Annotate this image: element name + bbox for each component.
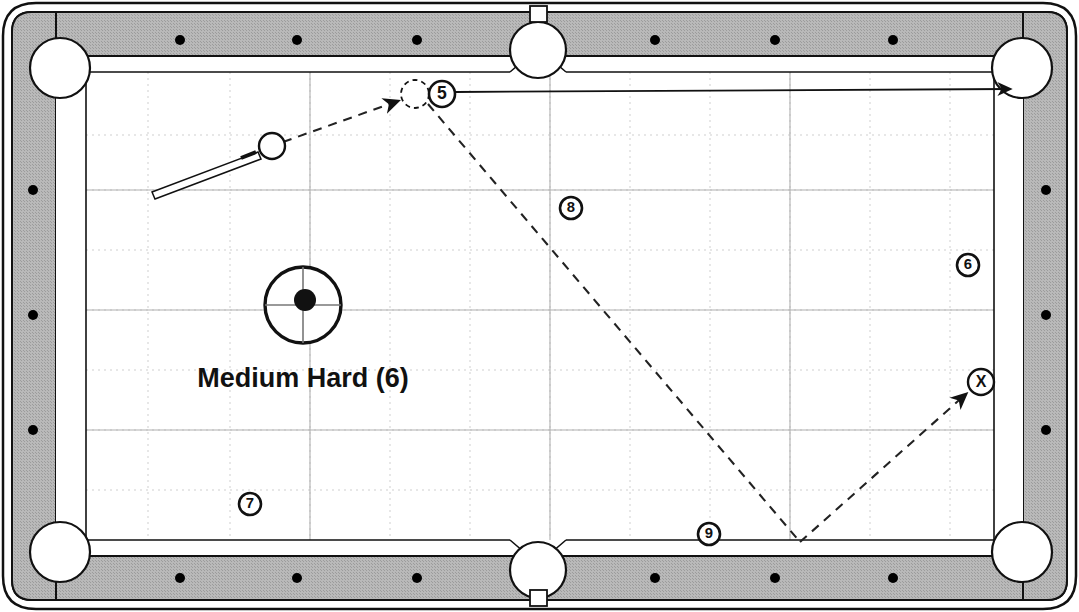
- ball-number: 9: [705, 525, 713, 541]
- rail-dot-top: [292, 35, 302, 45]
- rail-dot-bottom: [412, 573, 422, 583]
- tip-position-indicator: [265, 267, 341, 343]
- ball-8: 8: [560, 197, 582, 219]
- rail-dot-right: [1041, 425, 1051, 435]
- tip-contact-point: [294, 289, 316, 311]
- rail-dot-top: [412, 35, 422, 45]
- rail-dot-left: [28, 425, 38, 435]
- rail-dot-left: [28, 310, 38, 320]
- pocket-top-middle: [510, 22, 566, 78]
- target-label: X: [976, 373, 987, 390]
- rail-right: [1023, 12, 1067, 600]
- pocket-tab-top: [530, 6, 547, 22]
- pool-table-diagram: 58679 X Medium Hard (6): [0, 0, 1079, 612]
- pocket-bottom-right: [992, 522, 1052, 582]
- table-canvas: 58679 X Medium Hard (6): [0, 0, 1079, 612]
- rail-dot-top: [770, 35, 780, 45]
- rail-dot-bottom: [175, 573, 185, 583]
- table-frame: [3, 3, 1076, 609]
- ball-number: 6: [964, 256, 972, 272]
- cue-ball: [259, 133, 285, 159]
- rail-dot-bottom: [770, 573, 780, 583]
- rail-dot-right: [1041, 185, 1051, 195]
- rail-dot-top: [888, 35, 898, 45]
- ball-5: 5: [429, 81, 455, 107]
- pocket-top-left: [30, 38, 90, 98]
- rail-dot-left: [28, 185, 38, 195]
- rail-dot-bottom: [888, 573, 898, 583]
- ball-6: 6: [957, 254, 979, 276]
- pocket-bottom-left: [30, 522, 90, 582]
- ball-number: 7: [246, 495, 254, 511]
- rail-left: [12, 12, 56, 600]
- ball-number: 5: [437, 83, 447, 103]
- ball-7: 7: [239, 493, 261, 515]
- rail-dot-right: [1041, 310, 1051, 320]
- rail-dot-top: [175, 35, 185, 45]
- rail-dot-top: [650, 35, 660, 45]
- pocket-tab-bottom: [530, 590, 547, 606]
- target-marker-x: X: [968, 369, 994, 395]
- playing-surface: [56, 56, 1023, 556]
- ball-number: 8: [567, 199, 575, 215]
- ball-9: 9: [698, 523, 720, 545]
- rail-dot-bottom: [292, 573, 302, 583]
- speed-label: Medium Hard (6): [197, 363, 409, 393]
- rail-dot-bottom: [650, 573, 660, 583]
